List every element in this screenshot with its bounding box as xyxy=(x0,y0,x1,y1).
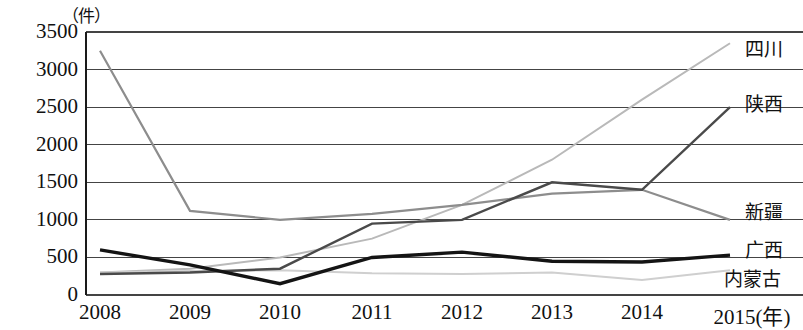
y-tick-label-2500: 2500 xyxy=(36,96,78,117)
y-tick-label-3000: 3000 xyxy=(36,59,78,80)
y-tick-label-3500: 3500 xyxy=(36,21,78,42)
y-tick-label-1000: 1000 xyxy=(36,209,78,230)
y-tick-label-0: 0 xyxy=(68,284,79,305)
y-tick-label-2000: 2000 xyxy=(36,134,78,155)
x-tick-label-2014: 2014 xyxy=(621,300,663,325)
x-tick-label-2013: 2013 xyxy=(531,300,573,325)
legend-label-陕西: 陕西 xyxy=(745,89,783,116)
x-tick-label-2009: 2009 xyxy=(169,300,211,325)
x-tick-label-2010: 2010 xyxy=(259,300,301,325)
series-line-新疆 xyxy=(100,51,730,220)
y-tick-1000: 1000 xyxy=(0,220,86,221)
x-tick-label-2015: 2015(年) xyxy=(714,300,791,330)
legend-label-新疆: 新疆 xyxy=(745,197,783,224)
y-tick-label-1500: 1500 xyxy=(36,171,78,192)
x-tick-label-2012: 2012 xyxy=(441,300,483,325)
y-tick-2500: 2500 xyxy=(0,107,86,108)
y-tick-1500: 1500 xyxy=(0,182,86,183)
x-tick-label-2011: 2011 xyxy=(351,300,392,325)
y-tick-0: 0 xyxy=(0,295,86,296)
x-tick-label-2008: 2008 xyxy=(79,300,121,325)
y-tick-500: 500 xyxy=(0,257,86,258)
legend-label-内蒙古: 内蒙古 xyxy=(724,264,781,291)
y-tick-3000: 3000 xyxy=(0,70,86,71)
series-line-四川 xyxy=(100,43,730,272)
y-tick-label-500: 500 xyxy=(47,246,79,267)
y-tick-2000: 2000 xyxy=(0,145,86,146)
legend-label-四川: 四川 xyxy=(745,34,783,61)
y-tick-3500: 3500 xyxy=(0,32,86,33)
legend-label-广西: 广西 xyxy=(745,235,783,262)
